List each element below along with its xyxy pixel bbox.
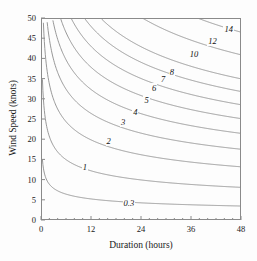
x-tick-label: 24 — [129, 225, 153, 234]
contour-chart-figure: 0.312345678101214 05101520253035404550 0… — [0, 0, 257, 261]
contour-label: 3 — [120, 117, 126, 127]
x-axis-label: Duration (hours) — [41, 240, 241, 250]
x-tick-label: 48 — [229, 225, 253, 234]
contour-label: 4 — [132, 107, 138, 117]
x-tick-label: 36 — [179, 225, 203, 234]
contour-label: 8 — [169, 67, 175, 77]
contour-label: 7 — [160, 74, 166, 84]
contour-label: 5 — [143, 95, 149, 105]
contour-label: 0.3 — [123, 198, 136, 208]
contour-label: 2 — [106, 136, 112, 146]
x-tick-label: 12 — [79, 225, 103, 234]
axis-ticks-group — [41, 18, 241, 220]
contour-label: 12 — [207, 36, 218, 46]
contour-label: 6 — [151, 83, 157, 93]
plot-area: 0.312345678101214 — [41, 18, 241, 220]
x-tick-label: 0 — [29, 225, 53, 234]
contour-label: 14 — [223, 24, 234, 34]
contour-label: 1 — [82, 162, 88, 172]
contour-label: 10 — [189, 49, 200, 59]
y-axis-label: Wind Speed (knots) — [8, 17, 20, 219]
